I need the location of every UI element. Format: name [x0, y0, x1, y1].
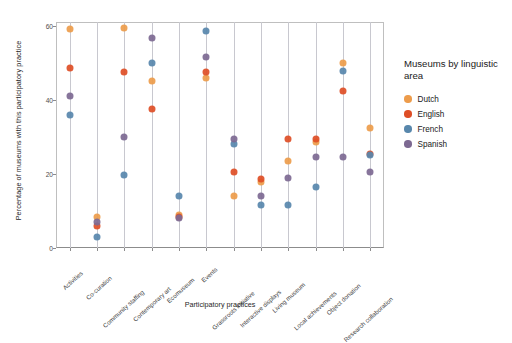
x-axis-tick — [316, 248, 317, 251]
y-axis-tick — [53, 174, 56, 175]
data-point — [258, 176, 265, 183]
data-point — [285, 135, 292, 142]
category-gridline — [261, 22, 262, 248]
data-point — [340, 87, 347, 94]
legend-swatch-icon — [404, 95, 412, 103]
x-axis-tick — [261, 248, 262, 251]
category-gridline — [370, 22, 371, 248]
legend-item-label: Dutch — [418, 95, 439, 104]
data-point — [312, 154, 319, 161]
x-axis-tick — [70, 248, 71, 251]
data-point — [66, 111, 73, 118]
data-point — [94, 233, 101, 240]
data-point — [340, 59, 347, 66]
x-axis-tick — [124, 248, 125, 251]
x-axis-tick — [343, 248, 344, 251]
data-point — [94, 219, 101, 226]
data-point — [230, 135, 237, 142]
data-point — [66, 65, 73, 72]
y-axis-tick-label: 60 — [46, 22, 53, 29]
data-point — [367, 124, 374, 131]
y-axis-tick-label: 20 — [46, 170, 53, 177]
x-axis-tick — [370, 248, 371, 251]
data-point — [121, 25, 128, 32]
legend-item-label: Spanish — [418, 140, 448, 149]
data-point — [367, 169, 374, 176]
data-point — [230, 193, 237, 200]
legend-item-english[interactable]: English — [404, 107, 508, 122]
data-point — [340, 154, 347, 161]
x-axis-tick-label: Events — [200, 266, 219, 284]
data-point — [121, 69, 128, 76]
category-gridline — [343, 22, 344, 248]
legend-entries: DutchEnglishFrenchSpanish — [404, 92, 508, 152]
x-axis-tick — [206, 248, 207, 251]
y-axis-tick-label: 0 — [49, 245, 53, 252]
legend: Museums by linguistic area DutchEnglishF… — [404, 58, 508, 152]
x-axis-title: Participatory practices — [56, 300, 384, 309]
data-point — [312, 135, 319, 142]
category-gridline — [70, 22, 71, 248]
data-point — [367, 152, 374, 159]
data-point — [203, 69, 210, 76]
legend-swatch-icon — [404, 140, 412, 148]
x-axis-tick — [179, 248, 180, 251]
y-axis-tick-label: 40 — [46, 96, 53, 103]
data-point — [285, 174, 292, 181]
data-point — [285, 202, 292, 209]
data-point — [66, 26, 73, 33]
data-point — [121, 171, 128, 178]
x-axis-tick — [97, 248, 98, 251]
x-axis-tick-label: Co-curation — [84, 274, 112, 301]
legend-item-spanish[interactable]: Spanish — [404, 137, 508, 152]
plot-frame — [56, 22, 384, 248]
data-point — [148, 77, 155, 84]
data-point — [312, 183, 319, 190]
x-axis-tick — [152, 248, 153, 251]
data-point — [203, 28, 210, 35]
y-axis-tick — [53, 248, 56, 249]
category-gridline — [152, 22, 153, 248]
y-axis-tick — [53, 100, 56, 101]
legend-title: Museums by linguistic area — [404, 58, 508, 83]
legend-item-dutch[interactable]: Dutch — [404, 92, 508, 107]
data-point — [258, 193, 265, 200]
y-axis-title: Percentage of museums with this particip… — [8, 0, 30, 260]
legend-swatch-icon — [404, 110, 412, 118]
legend-item-french[interactable]: French — [404, 122, 508, 137]
data-point — [258, 202, 265, 209]
data-point — [148, 59, 155, 66]
legend-item-label: French — [418, 125, 443, 134]
data-point — [340, 67, 347, 74]
data-point — [230, 169, 237, 176]
legend-swatch-icon — [404, 125, 412, 133]
data-point — [176, 193, 183, 200]
y-axis-title-text: Percentage of museums with this particip… — [15, 40, 24, 220]
data-point — [148, 34, 155, 41]
plot-area: 0204060ActivitiesCo-curationCommunity st… — [56, 22, 384, 248]
data-point — [203, 54, 210, 61]
x-axis-tick — [234, 248, 235, 251]
data-point — [176, 215, 183, 222]
x-axis-tick-label: Grassroots initiative — [210, 289, 255, 331]
data-point — [148, 106, 155, 113]
data-point — [285, 157, 292, 164]
data-point — [66, 93, 73, 100]
data-point — [121, 133, 128, 140]
y-axis-tick — [53, 26, 56, 27]
x-axis-tick — [288, 248, 289, 251]
legend-item-label: English — [418, 110, 445, 119]
x-axis-tick-label: Activities — [61, 269, 84, 291]
